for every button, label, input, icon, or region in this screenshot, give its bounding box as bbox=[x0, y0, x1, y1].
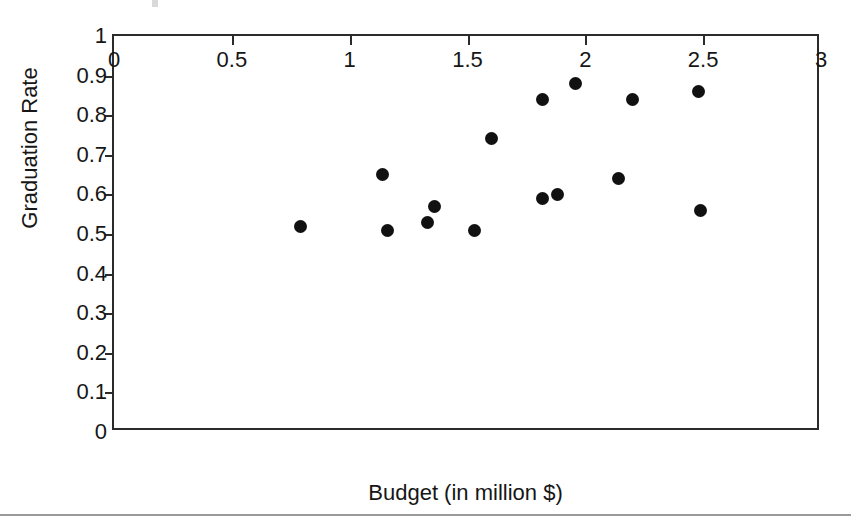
x-tick-mark bbox=[703, 36, 705, 45]
x-tick-label: 3 bbox=[815, 49, 827, 71]
y-tick-label: 0.2 bbox=[76, 342, 107, 364]
x-tick-mark bbox=[585, 36, 587, 45]
scan-artifact-speck bbox=[152, 0, 158, 7]
y-axis-title: Graduation Rate bbox=[17, 0, 43, 308]
y-tick-label: 0.9 bbox=[76, 65, 107, 87]
data-point bbox=[626, 93, 639, 106]
y-tick-label: 0.8 bbox=[76, 104, 107, 126]
x-tick-mark bbox=[232, 36, 234, 45]
data-point bbox=[468, 224, 481, 237]
x-tick-mark bbox=[350, 36, 352, 45]
x-tick-label: 1.5 bbox=[452, 49, 483, 71]
y-tick-label: 0.6 bbox=[76, 183, 107, 205]
data-point bbox=[485, 132, 498, 145]
page-divider-rule bbox=[0, 514, 851, 516]
data-point bbox=[692, 85, 705, 98]
x-tick-label: 0.5 bbox=[217, 49, 248, 71]
x-tick-label: 1 bbox=[344, 49, 356, 71]
y-tick-label: 0.1 bbox=[76, 381, 107, 403]
data-point bbox=[536, 93, 549, 106]
data-point bbox=[294, 220, 307, 233]
data-point bbox=[428, 200, 441, 213]
data-point bbox=[612, 172, 625, 185]
y-tick-label: 0 bbox=[95, 421, 107, 443]
y-tick-label: 0.4 bbox=[76, 263, 107, 285]
data-point bbox=[569, 77, 582, 90]
data-point bbox=[376, 168, 389, 181]
data-point bbox=[551, 188, 564, 201]
data-point bbox=[694, 204, 707, 217]
data-point bbox=[421, 216, 434, 229]
x-tick-label: 0 bbox=[108, 49, 120, 71]
x-tick-label: 2 bbox=[579, 49, 591, 71]
data-point bbox=[381, 224, 394, 237]
y-tick-label: 0.7 bbox=[76, 144, 107, 166]
scatter-plot-figure: 00.10.20.30.40.50.60.70.80.91 00.511.522… bbox=[0, 0, 851, 522]
x-axis-title: Budget (in million $) bbox=[112, 480, 819, 506]
data-point bbox=[536, 192, 549, 205]
plot-area: 00.10.20.30.40.50.60.70.80.91 00.511.522… bbox=[112, 34, 819, 430]
y-tick-label: 0.5 bbox=[76, 223, 107, 245]
data-points-layer bbox=[114, 36, 817, 428]
x-tick-label: 2.5 bbox=[688, 49, 719, 71]
x-tick-mark bbox=[468, 36, 470, 45]
y-tick-label: 1 bbox=[95, 25, 107, 47]
y-tick-label: 0.3 bbox=[76, 302, 107, 324]
